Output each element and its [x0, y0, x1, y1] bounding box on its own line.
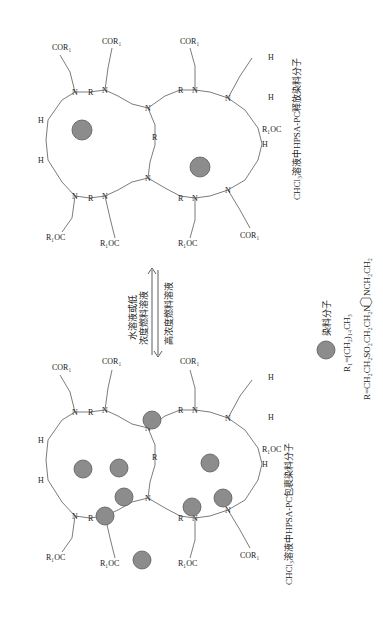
legend-dye-icon	[317, 341, 335, 359]
svg-text:H: H	[262, 140, 268, 149]
dye-molecule	[133, 551, 151, 569]
svg-text:R: R	[152, 453, 158, 462]
svg-text:N: N	[72, 192, 78, 201]
dye-molecule	[190, 157, 210, 177]
svg-text:COR₁: COR₁	[52, 43, 71, 52]
svg-text:N: N	[145, 174, 151, 183]
top-molecule-caption: CHCl₃溶液中HPSA-PC释放染料分子	[291, 58, 302, 200]
svg-text:N: N	[225, 94, 231, 103]
svg-text:R: R	[88, 88, 94, 97]
svg-text:H: H	[268, 373, 274, 382]
svg-text:N: N	[225, 186, 231, 195]
bottom-atom-labels: N N N N N N N N N N R R R R R H H H H H …	[38, 357, 281, 568]
bottom-molecule-caption: CHCl₃溶液中HPSA-PC包裹染料分子	[283, 443, 294, 585]
legend-dye-label: 染料分子	[321, 300, 332, 336]
bottom-molecule: N N N N N N N N N N R R R R R H H H H H …	[38, 357, 281, 569]
equilibrium-arrows: 水溶液或低 浓度燃料溶液 高浓度燃料溶液	[127, 268, 174, 357]
dye-molecule	[110, 459, 128, 477]
svg-text:R₁OC: R₁OC	[46, 233, 65, 242]
svg-text:N: N	[225, 414, 231, 423]
svg-text:N: N	[72, 512, 78, 521]
svg-text:R: R	[178, 514, 184, 523]
svg-text:N: N	[102, 192, 108, 201]
svg-text:R₁OC: R₁OC	[262, 445, 281, 454]
svg-text:N: N	[102, 406, 108, 415]
svg-text:COR₁: COR₁	[102, 37, 121, 46]
legend: 染料分子 R₁=(CH₂)₁₄CH₃ R=CH₂CH₂SO₂CH₂CH₂N NC…	[317, 258, 372, 400]
svg-text:N: N	[192, 86, 198, 95]
svg-text:R₁OC: R₁OC	[100, 239, 119, 248]
svg-text:COR₁: COR₁	[240, 551, 259, 560]
svg-text:R₁OC: R₁OC	[46, 553, 65, 562]
forward-condition-line2: 浓度燃料溶液	[138, 291, 149, 345]
svg-text:R: R	[88, 194, 94, 203]
svg-text:R: R	[178, 194, 184, 203]
dendrimer-dye-diagram: N N N N N N N N N N R R R R R H H H H H …	[0, 0, 383, 624]
svg-text:R: R	[88, 514, 94, 523]
svg-text:COR₁: COR₁	[102, 357, 121, 366]
piperazine-ring-icon	[360, 298, 372, 306]
svg-text:R: R	[178, 406, 184, 415]
svg-text:H: H	[268, 53, 274, 62]
svg-text:COR₁: COR₁	[180, 357, 199, 366]
dye-molecule	[115, 488, 133, 506]
svg-text:N: N	[72, 88, 78, 97]
svg-text:H: H	[268, 93, 274, 102]
svg-text:N: N	[145, 494, 151, 503]
dye-molecule	[183, 498, 201, 516]
svg-text:COR₁: COR₁	[52, 363, 71, 372]
svg-text:R₁OC: R₁OC	[178, 559, 197, 568]
dye-molecule	[143, 411, 161, 429]
svg-text:R: R	[152, 133, 158, 142]
top-molecule: N N N N N N N N N N R R R R R H H H H H …	[38, 37, 281, 248]
forward-condition-line1: 水溶液或低	[127, 295, 138, 340]
svg-text:N: N	[192, 194, 198, 203]
svg-text:N: N	[145, 104, 151, 113]
svg-text:N: N	[72, 408, 78, 417]
svg-text:H: H	[38, 116, 44, 125]
svg-text:COR₁: COR₁	[240, 231, 259, 240]
svg-text:N: N	[102, 86, 108, 95]
svg-text:H: H	[38, 436, 44, 445]
svg-text:H: H	[262, 460, 268, 469]
svg-text:R: R	[178, 86, 184, 95]
svg-text:H: H	[268, 413, 274, 422]
reverse-condition: 高浓度燃料溶液	[163, 282, 174, 345]
svg-text:H: H	[38, 156, 44, 165]
dye-molecule	[214, 489, 232, 507]
legend-r-definition-suffix: NCH₂CH₂	[362, 258, 372, 296]
legend-r1-definition: R₁=(CH₂)₁₄CH₃	[342, 314, 352, 372]
svg-text:R₁OC: R₁OC	[262, 125, 281, 134]
svg-text:R₁OC: R₁OC	[100, 559, 119, 568]
svg-text:N: N	[192, 406, 198, 415]
legend-r-definition-prefix: R=CH₂CH₂SO₂CH₂CH₂N	[362, 305, 372, 400]
svg-text:COR₁: COR₁	[180, 37, 199, 46]
dye-molecule	[72, 120, 92, 140]
svg-text:R₁OC: R₁OC	[178, 239, 197, 248]
svg-text:N: N	[225, 506, 231, 515]
dye-molecule	[74, 460, 92, 478]
dye-molecule	[96, 507, 114, 525]
dye-molecule	[201, 454, 219, 472]
svg-text:R: R	[88, 408, 94, 417]
svg-text:H: H	[38, 476, 44, 485]
